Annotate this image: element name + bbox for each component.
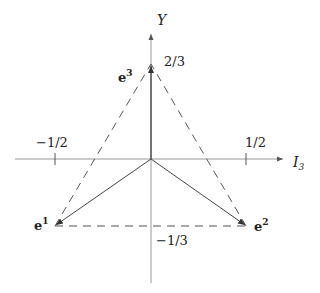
x-axis-label: I3 xyxy=(292,154,305,172)
tick-label-y-bottom: −1/3 xyxy=(156,233,188,248)
vector-e2 xyxy=(151,159,245,225)
tick-label-x-pos: 1/2 xyxy=(245,135,266,150)
label-e2: e2 xyxy=(254,217,269,234)
label-e3: e3 xyxy=(118,68,133,85)
weight-diagram: Y I3 −1/2 1/2 2/3 −1/3 e1 e2 e3 xyxy=(0,0,320,293)
label-e1: e1 xyxy=(34,216,49,233)
tick-label-x-neg: −1/2 xyxy=(36,135,68,150)
tick-label-y-top: 2/3 xyxy=(164,54,185,69)
vector-e1 xyxy=(56,159,151,225)
y-axis-label: Y xyxy=(157,12,168,28)
